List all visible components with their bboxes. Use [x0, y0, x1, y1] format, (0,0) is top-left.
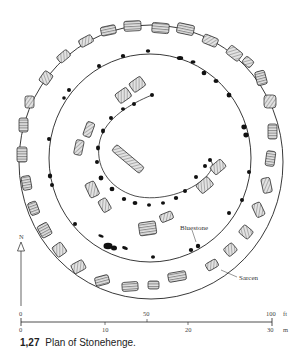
sarsen-leader	[221, 270, 237, 277]
scale-m-0: 0	[19, 326, 22, 333]
outer-circle	[19, 25, 283, 299]
trilithon-stones	[73, 76, 226, 236]
north-label: N	[19, 233, 24, 240]
scale-bar: 0 50 100 ft 0 10 20 30 m	[19, 310, 288, 333]
scale-m-20: 20	[185, 326, 192, 333]
scale-ft-100: 100	[266, 310, 276, 317]
scale-m-unit: m	[283, 326, 288, 333]
scale-ft-unit: ft	[283, 310, 287, 317]
caption-number: 1,27	[20, 337, 39, 348]
caption-text: Plan of Stonehenge.	[45, 337, 136, 348]
scale-m-30: 30	[267, 326, 274, 333]
sarsen-outer-stones	[17, 21, 277, 292]
scale-ft-50: 50	[143, 310, 150, 317]
scale-m-10: 10	[102, 326, 109, 333]
north-arrow: N	[18, 233, 25, 306]
stonehenge-plan: Bluestone Sarcen N 0 50 100 ft 0 10 20 3…	[0, 0, 304, 355]
sarsen-label: Sarcen	[239, 274, 259, 282]
bluestone-label: Bluestone	[180, 224, 208, 232]
figure-caption: 1,27 Plan of Stonehenge.	[20, 337, 136, 348]
scale-ft-0: 0	[19, 310, 22, 317]
